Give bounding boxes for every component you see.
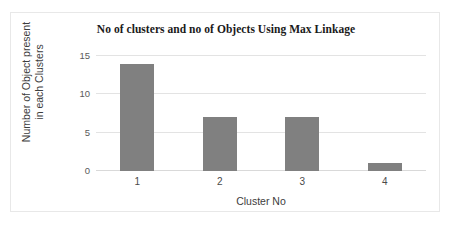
bar-slot: 3 — [261, 56, 344, 171]
bar-slot: 2 — [179, 56, 262, 171]
x-axis-title: Cluster No — [96, 195, 426, 207]
y-axis-title-line2: in each Clusters — [33, 44, 46, 119]
chart-title: No of clusters and no of Objects Using M… — [11, 23, 441, 35]
y-tick-label: 10 — [79, 88, 90, 99]
bar[interactable] — [368, 163, 402, 171]
y-axis-title: Number of Object present in each Cluster… — [16, 12, 50, 152]
x-tick-label: 4 — [382, 176, 388, 187]
bar[interactable] — [203, 117, 237, 171]
y-tick-label: 15 — [79, 50, 90, 61]
bar[interactable] — [285, 117, 319, 171]
x-tick-label: 3 — [299, 176, 305, 187]
y-tick-label: 5 — [85, 126, 90, 137]
bar-series: 1234 — [96, 56, 426, 171]
x-tick-label: 2 — [217, 176, 223, 187]
plot-area: 051015 1234 — [96, 56, 426, 171]
x-tick-label: 1 — [134, 176, 140, 187]
bar[interactable] — [120, 64, 154, 171]
y-tick-label: 0 — [85, 165, 90, 176]
chart-container: No of clusters and no of Objects Using M… — [10, 12, 440, 212]
y-axis-title-line1: Number of Object present — [20, 22, 33, 142]
bar-slot: 1 — [96, 56, 179, 171]
bar-slot: 4 — [344, 56, 427, 171]
